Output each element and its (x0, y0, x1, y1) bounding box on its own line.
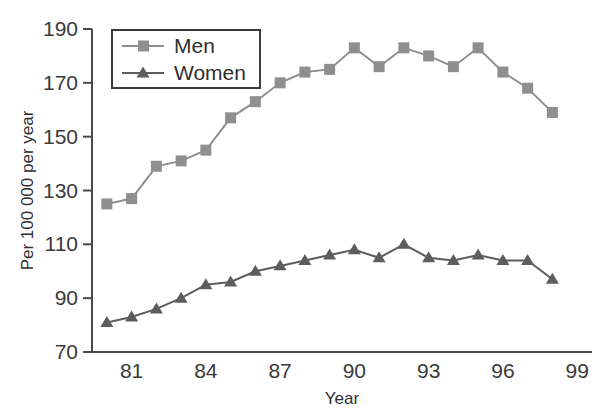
data-point-marker (225, 112, 236, 123)
chart-legend: MenWomen (112, 30, 260, 88)
x-tick-label: 87 (268, 359, 291, 382)
data-point-marker (175, 292, 188, 303)
data-point-marker (472, 249, 485, 260)
data-point-marker (521, 254, 534, 265)
y-tick-label: 190 (43, 17, 78, 40)
y-tick-label: 70 (55, 340, 78, 363)
data-point-marker (423, 50, 434, 61)
y-tick-label: 110 (45, 232, 78, 255)
data-point-marker (473, 42, 484, 53)
x-tick-label: 99 (565, 359, 588, 382)
data-point-marker (151, 161, 162, 172)
legend-label: Men (174, 34, 215, 57)
x-tick-label: 93 (417, 359, 440, 382)
y-tick-label: 130 (43, 179, 78, 202)
data-point-marker (398, 42, 409, 53)
x-axis-ticks: 81848790939699 (120, 359, 589, 382)
x-tick-label: 84 (194, 359, 218, 382)
data-point-marker (101, 198, 112, 209)
x-axis-title: Year (325, 389, 360, 408)
data-point-marker (397, 238, 410, 249)
legend-label: Women (174, 61, 246, 84)
data-point-marker (374, 61, 385, 72)
data-point-marker (349, 42, 360, 53)
line-chart: 7090110130150170190 81848790939699 MenWo… (0, 0, 607, 416)
data-point-marker (547, 107, 558, 118)
data-point-marker (497, 67, 508, 78)
data-point-marker (348, 243, 361, 254)
x-tick-label: 81 (120, 359, 143, 382)
series-women (100, 238, 559, 327)
data-point-marker (176, 155, 187, 166)
data-point-marker (299, 67, 310, 78)
chart-container: 7090110130150170190 81848790939699 MenWo… (0, 0, 607, 416)
data-point-marker (522, 83, 533, 94)
data-point-marker (546, 273, 559, 284)
x-tick-label: 96 (491, 359, 514, 382)
y-tick-label: 170 (43, 71, 78, 94)
y-axis-ticks: 7090110130150170190 (43, 17, 92, 363)
data-point-marker (448, 61, 459, 72)
x-tick-label: 90 (343, 359, 366, 382)
legend-swatch-marker (138, 41, 149, 52)
data-point-marker (422, 251, 435, 262)
data-point-marker (126, 193, 137, 204)
data-point-marker (200, 145, 211, 156)
data-point-marker (324, 64, 335, 75)
data-point-marker (275, 77, 286, 88)
y-tick-label: 90 (55, 286, 78, 309)
y-tick-label: 150 (43, 125, 78, 148)
y-axis-title: Per 100 000 per year (18, 110, 37, 270)
data-point-marker (250, 96, 261, 107)
